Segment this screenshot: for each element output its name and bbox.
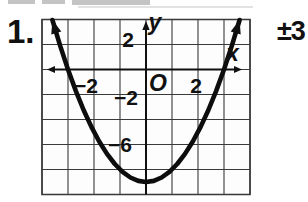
y-tick-2: 2 (122, 28, 134, 51)
x-axis-label: x (224, 40, 240, 66)
cropped-text-artifact (8, 0, 253, 8)
x-tick-neg2: −2 (74, 74, 98, 97)
origin-label: O (149, 70, 167, 96)
y-tick-neg6: −6 (108, 133, 132, 156)
x-tick-2: 2 (190, 74, 202, 97)
y-axis-label: y (148, 9, 163, 35)
answer-value: ±3 (277, 16, 306, 46)
problem-number: 1. (7, 13, 35, 50)
answer-key-figure: 1. ±3 y x O 2 −2 −6 −2 2 (0, 0, 308, 202)
y-tick-neg2: −2 (114, 86, 138, 109)
